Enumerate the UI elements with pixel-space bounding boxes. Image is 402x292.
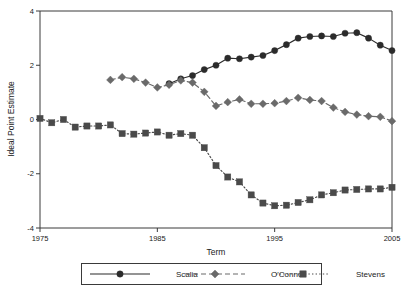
data-point-marker bbox=[107, 76, 115, 84]
y-tick-label: -2 bbox=[27, 169, 34, 178]
data-point-marker bbox=[354, 186, 360, 192]
data-point-marker bbox=[353, 111, 361, 119]
data-point-marker bbox=[319, 192, 325, 198]
data-point-marker bbox=[107, 122, 113, 128]
x-tick-label: 2005 bbox=[384, 234, 401, 243]
data-point-marker bbox=[201, 145, 207, 151]
y-tick-label: -4 bbox=[27, 224, 34, 233]
series-stevens bbox=[37, 115, 395, 209]
x-axis-ticks: 1975198519952005 bbox=[32, 228, 401, 243]
data-point-marker bbox=[294, 94, 302, 102]
series-oconnor bbox=[107, 73, 396, 125]
data-point-marker bbox=[283, 202, 289, 208]
x-tick-label: 1995 bbox=[266, 234, 283, 243]
data-point-marker bbox=[236, 56, 242, 62]
data-point-marker bbox=[307, 33, 313, 39]
data-point-marker bbox=[283, 42, 289, 48]
series-line bbox=[110, 77, 392, 121]
data-point-marker bbox=[389, 48, 395, 54]
data-point-marker bbox=[306, 96, 314, 104]
data-point-marker bbox=[330, 190, 336, 196]
data-point-marker bbox=[84, 123, 90, 129]
legend-label-stevens: Stevens bbox=[356, 270, 385, 279]
data-point-marker bbox=[300, 271, 306, 277]
data-point-marker bbox=[166, 132, 172, 138]
data-point-marker bbox=[236, 96, 244, 104]
ideal-point-line-chart: -4-2024 1975198519952005 Ideal Point Est… bbox=[0, 0, 402, 292]
data-point-marker bbox=[119, 131, 125, 137]
data-point-marker bbox=[60, 116, 66, 122]
series-layer bbox=[37, 30, 396, 209]
data-point-marker bbox=[271, 99, 279, 107]
data-point-marker bbox=[342, 187, 348, 193]
series-line bbox=[169, 33, 392, 84]
data-point-marker bbox=[342, 30, 348, 36]
data-point-marker bbox=[248, 54, 254, 60]
data-point-marker bbox=[354, 30, 360, 36]
data-point-marker bbox=[365, 112, 373, 120]
data-point-marker bbox=[318, 97, 326, 105]
data-point-marker bbox=[247, 100, 255, 108]
data-point-marker bbox=[307, 197, 313, 203]
data-point-marker bbox=[365, 186, 371, 192]
data-point-marker bbox=[295, 35, 301, 41]
data-point-marker bbox=[260, 200, 266, 206]
data-point-marker bbox=[272, 48, 278, 54]
data-point-marker bbox=[225, 174, 231, 180]
data-point-marker bbox=[388, 117, 396, 125]
data-point-marker bbox=[49, 120, 55, 126]
data-point-marker bbox=[329, 104, 337, 112]
y-tick-label: 2 bbox=[30, 61, 34, 70]
series-scalia bbox=[166, 30, 395, 87]
data-point-marker bbox=[213, 163, 219, 169]
data-point-marker bbox=[153, 84, 161, 92]
data-point-marker bbox=[319, 33, 325, 39]
y-axis-title: Ideal Point Estimate bbox=[6, 81, 16, 157]
data-point-marker bbox=[131, 131, 137, 137]
plot-frame bbox=[40, 11, 392, 228]
data-point-marker bbox=[236, 179, 242, 185]
data-point-marker bbox=[96, 123, 102, 129]
y-tick-label: 0 bbox=[30, 115, 34, 124]
data-point-marker bbox=[377, 42, 383, 48]
data-point-marker bbox=[365, 35, 371, 41]
data-point-marker bbox=[259, 100, 267, 108]
data-point-marker bbox=[272, 203, 278, 209]
data-point-marker bbox=[143, 130, 149, 136]
data-point-marker bbox=[189, 132, 195, 138]
data-point-marker bbox=[341, 108, 349, 116]
data-point-marker bbox=[295, 199, 301, 205]
data-point-marker bbox=[72, 124, 78, 130]
data-point-marker bbox=[142, 79, 150, 87]
data-point-marker bbox=[189, 72, 195, 78]
data-point-marker bbox=[154, 129, 160, 135]
data-point-marker bbox=[178, 131, 184, 137]
y-tick-label: 4 bbox=[30, 7, 34, 16]
data-point-marker bbox=[201, 66, 207, 72]
data-point-marker bbox=[225, 55, 231, 61]
axis-frame bbox=[40, 11, 392, 228]
data-point-marker bbox=[130, 75, 138, 83]
chart-canvas: -4-2024 1975198519952005 Ideal Point Est… bbox=[0, 0, 402, 292]
data-point-marker bbox=[37, 115, 43, 121]
data-point-marker bbox=[376, 113, 384, 121]
data-point-marker bbox=[377, 186, 383, 192]
data-point-marker bbox=[389, 184, 395, 190]
data-point-marker bbox=[283, 97, 291, 105]
x-tick-label: 1975 bbox=[32, 234, 49, 243]
data-point-marker bbox=[260, 52, 266, 58]
data-point-marker bbox=[211, 270, 219, 278]
series-line bbox=[40, 118, 392, 205]
chart-legend: ScaliaO'ConnorStevens bbox=[82, 264, 385, 285]
data-point-marker bbox=[118, 73, 126, 81]
data-point-marker bbox=[117, 271, 123, 277]
data-point-marker bbox=[213, 62, 219, 68]
data-point-marker bbox=[224, 98, 232, 106]
data-point-marker bbox=[248, 192, 254, 198]
x-tick-label: 1985 bbox=[149, 234, 166, 243]
x-axis-title: Term bbox=[207, 247, 226, 257]
data-point-marker bbox=[330, 33, 336, 39]
